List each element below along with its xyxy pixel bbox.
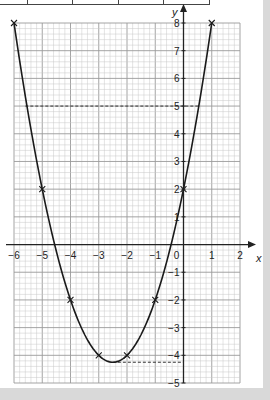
y-tick-label: 6 bbox=[174, 73, 180, 84]
x-tick-label: −5 bbox=[37, 250, 49, 261]
y-tick-label: −4 bbox=[168, 350, 180, 361]
y-axis-label: y bbox=[171, 6, 179, 18]
x-tick-label: −4 bbox=[65, 250, 77, 261]
y-tick-label: 8 bbox=[174, 18, 180, 29]
y-tick-label: 2 bbox=[174, 184, 180, 195]
parabola-line bbox=[14, 23, 212, 362]
y-tick-label: 3 bbox=[174, 156, 180, 167]
x-axis-label: x bbox=[255, 252, 262, 264]
y-tick-label: 5 bbox=[174, 101, 180, 112]
grid bbox=[14, 23, 240, 383]
y-tick-label: −1 bbox=[168, 267, 180, 278]
x-tick-label: −2 bbox=[121, 250, 133, 261]
y-tick-label: 4 bbox=[174, 129, 180, 140]
x-tick-label: 1 bbox=[209, 250, 215, 261]
y-tick-label: −5 bbox=[168, 378, 180, 389]
y-tick-label: −3 bbox=[168, 323, 180, 334]
x-tick-label: −1 bbox=[150, 250, 162, 261]
x-tick-label: 2 bbox=[237, 250, 243, 261]
x-axis-arrow-icon bbox=[248, 241, 256, 248]
y-axis-arrow-icon bbox=[180, 4, 187, 12]
x-tick-label: −6 bbox=[8, 250, 20, 261]
y-tick-label: 7 bbox=[174, 46, 180, 57]
y-tick-label: −2 bbox=[168, 295, 180, 306]
x-tick-label: −3 bbox=[93, 250, 105, 261]
x-tick-label: 0 bbox=[174, 250, 180, 261]
chart: −6−5−4−3−2−1012−5−4−3−2−112345678 x y bbox=[0, 0, 270, 400]
